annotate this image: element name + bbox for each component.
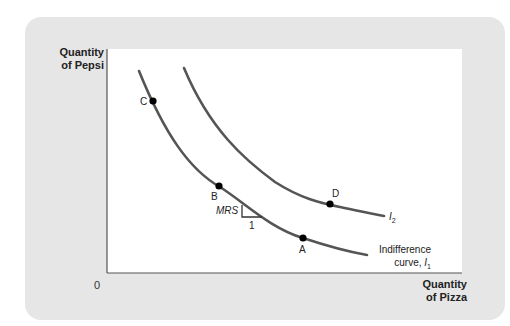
- mrs-label: MRS: [216, 205, 238, 216]
- i1-label-line1: Indifference: [371, 243, 431, 256]
- x-axis-label-line2: of Pizza: [422, 291, 467, 304]
- point-b-label: B: [211, 191, 218, 202]
- y-axis-label-line2: of Pepsi: [59, 59, 104, 72]
- x-axis-label: Quantity of Pizza: [422, 278, 467, 304]
- i2-subscript: 2: [392, 217, 396, 224]
- i1-label: Indifference curve, I1: [371, 243, 431, 273]
- origin-label: 0: [94, 279, 100, 291]
- point-a-label: A: [299, 244, 306, 255]
- point-b: [215, 182, 222, 189]
- i1-label-curve-text: curve,: [394, 257, 421, 268]
- point-a: [299, 234, 306, 241]
- point-c: [149, 97, 156, 104]
- i2-label: I2: [389, 210, 396, 227]
- point-d: [326, 200, 333, 207]
- y-axis-label: Quantity of Pepsi: [59, 46, 104, 72]
- i1-label-line2: curve, I1: [371, 256, 431, 273]
- point-d-label: D: [332, 188, 339, 199]
- point-c-label: C: [140, 96, 147, 107]
- i1-subscript: 1: [427, 263, 431, 270]
- slope-run-label: 1: [249, 220, 255, 231]
- x-axis-label-line1: Quantity: [422, 278, 467, 291]
- y-axis-label-line1: Quantity: [59, 46, 104, 59]
